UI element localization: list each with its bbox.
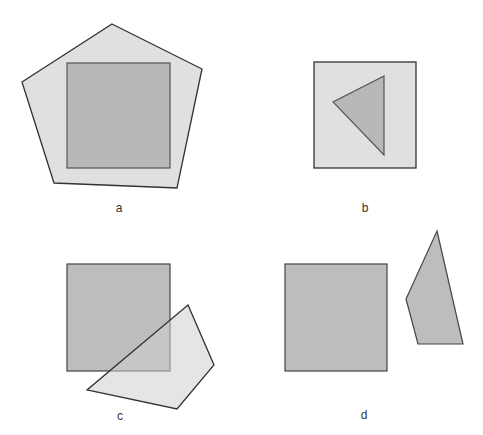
panel-d: d [285,231,463,422]
separate-quadrilateral [406,231,463,344]
panel-b: b [314,62,416,215]
polygon-relations-diagram: a b c d [0,0,483,435]
panel-c: c [67,264,214,423]
panel-label-b: b [362,201,369,215]
panel-a: a [22,24,202,215]
panel-label-c: c [117,409,123,423]
square [285,264,387,371]
inner-square [67,63,170,168]
panel-label-a: a [116,201,123,215]
panel-label-d: d [361,408,368,422]
